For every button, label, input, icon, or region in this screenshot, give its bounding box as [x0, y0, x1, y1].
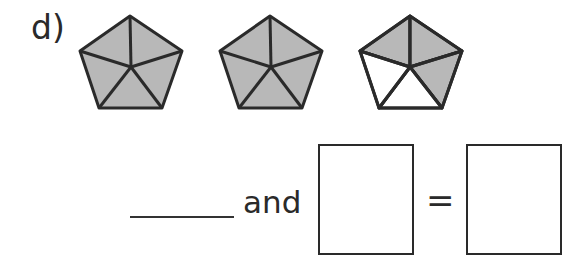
and-text: and: [243, 184, 301, 220]
answer-box-1[interactable]: [318, 144, 414, 255]
answer-blank-line[interactable]: [130, 216, 234, 218]
pentagon-1: [80, 16, 182, 108]
pentagon-2: [220, 16, 322, 108]
pentagon-group: [0, 0, 581, 130]
pentagon-3: [360, 16, 462, 108]
equals-sign: =: [426, 180, 455, 220]
answer-box-2[interactable]: [466, 144, 562, 255]
